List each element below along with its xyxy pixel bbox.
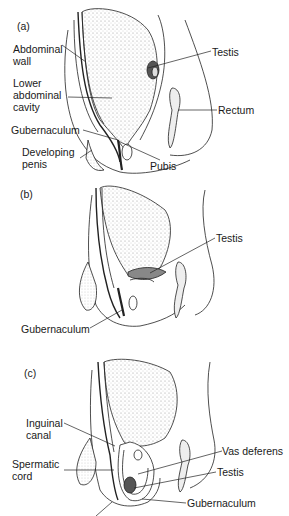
label-lower-abdominal-cavity: Lower abdominal cavity <box>13 77 61 113</box>
label-spermatic-cord: Spermatic cord <box>12 458 59 482</box>
panel-b-label: (b) <box>20 188 33 200</box>
label-gubernaculum-c: Gubernaculum <box>187 497 256 509</box>
panel-a-drawing <box>62 9 217 174</box>
panel-b-drawing <box>79 186 215 328</box>
label-gubernaculum-a: Gubernaculum <box>11 124 80 136</box>
label-inguinal-canal: Inguinal canal <box>26 417 63 441</box>
label-testis-b: Testis <box>216 232 243 244</box>
label-pubis: Pubis <box>150 160 176 172</box>
label-testis-c: Testis <box>217 466 244 478</box>
label-abdominal-wall: Abdominal wall <box>13 43 63 67</box>
label-testis-a: Testis <box>212 46 239 58</box>
label-rectum: Rectum <box>218 104 254 116</box>
panel-c-drawing <box>64 359 222 516</box>
label-gubernaculum-b: Gubernaculum <box>21 323 90 335</box>
label-vas-deferens: Vas deferens <box>222 445 283 457</box>
label-developing-penis: Developing penis <box>22 146 75 170</box>
panel-c-label: (c) <box>24 367 36 379</box>
panel-a-label: (a) <box>17 20 30 32</box>
